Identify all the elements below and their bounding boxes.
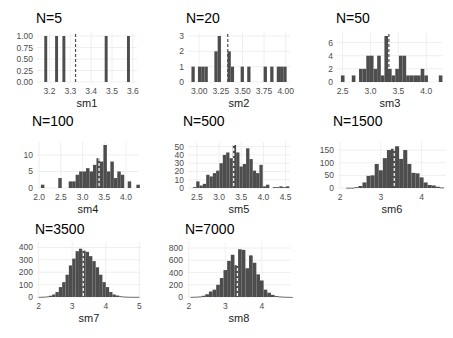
- histogram-bar: [76, 175, 79, 188]
- histogram-bar: [410, 75, 414, 82]
- histogram-bar: [220, 278, 224, 297]
- histogram-bar: [200, 186, 203, 188]
- histogram-bar: [72, 181, 75, 188]
- histogram-bar: [413, 75, 417, 82]
- histogram-bar: [205, 67, 208, 82]
- histogram-bar: [121, 175, 124, 188]
- histogram-bar: [375, 164, 379, 188]
- histogram-bar: [86, 168, 89, 188]
- x-tick-label: 3.75: [256, 86, 273, 96]
- histogram-bar: [399, 56, 403, 82]
- y-tick-label: 150: [320, 145, 334, 155]
- histogram-bar: [399, 159, 403, 188]
- histogram-bar: [358, 186, 362, 188]
- y-tick-label: 200: [169, 280, 183, 290]
- histogram-bar: [387, 150, 391, 188]
- histogram-bar: [392, 75, 396, 82]
- histogram-bar: [44, 36, 47, 82]
- x-tick-label: 2.5: [55, 192, 67, 202]
- histogram-bar: [260, 280, 264, 297]
- histogram-bar: [198, 297, 202, 298]
- histogram-bar: [242, 250, 246, 297]
- histogram-bar: [286, 186, 289, 188]
- histogram-bar: [403, 56, 407, 82]
- histogram-bar: [424, 182, 428, 188]
- x-tick-label: 3.0: [365, 86, 377, 96]
- histogram-bar: [210, 176, 213, 188]
- y-tick-label: 0: [328, 77, 333, 87]
- x-tick-label: 2: [36, 301, 41, 311]
- y-tick-label: 0: [28, 292, 33, 302]
- histogram-bar: [213, 290, 217, 297]
- histogram-bar: [271, 295, 275, 297]
- x-tick-label: 2: [338, 192, 343, 202]
- x-tick-label: 4.00: [277, 86, 294, 96]
- histogram-plot: 01233.003.253.503.754.00sm2: [150, 0, 300, 110]
- histogram-bar: [196, 181, 199, 188]
- histogram-bar: [191, 67, 194, 82]
- histogram-bar: [79, 171, 82, 188]
- histogram-bar: [193, 187, 196, 188]
- histogram-bar: [198, 67, 201, 82]
- histogram-panel-sm1: N=50.000.250.500.751.003.23.33.43.53.6sm…: [0, 0, 150, 110]
- histogram-bar: [39, 297, 42, 298]
- histogram-bar: [92, 261, 95, 297]
- y-tick-label: 1.00: [16, 31, 33, 41]
- histogram-bar: [266, 185, 269, 188]
- histogram-bar: [428, 185, 432, 188]
- histogram-bar: [256, 274, 260, 297]
- histogram-bar: [424, 75, 428, 82]
- histogram-bar: [202, 296, 206, 297]
- histogram-bar: [41, 185, 44, 188]
- x-axis-label: sm8: [229, 312, 250, 324]
- histogram-bar: [366, 56, 370, 82]
- histogram-bar: [233, 145, 236, 188]
- histogram-panel-sm5: N=500010203040502.53.03.54.04.5sm5: [150, 105, 300, 215]
- histogram-bar: [245, 268, 249, 297]
- x-axis-label: sm7: [79, 312, 100, 324]
- histogram-bar: [395, 146, 399, 188]
- histogram-panel-sm6: N=1500050100150234sm6: [300, 105, 450, 215]
- histogram-bar: [256, 173, 259, 188]
- histogram-bar: [194, 297, 198, 298]
- histogram-bar: [270, 67, 273, 82]
- histogram-panel-sm8: N=70000200400600800234sm8: [150, 215, 300, 325]
- histogram-bar: [216, 285, 220, 297]
- y-tick-label: 100: [19, 280, 33, 290]
- x-tick-label: 3: [223, 301, 228, 311]
- histogram-bar: [114, 178, 117, 188]
- histogram-plot: 02462.53.03.54.0sm3: [300, 0, 450, 110]
- histogram-bar: [105, 36, 108, 82]
- y-tick-label: 2: [328, 64, 333, 74]
- histogram-bar: [100, 162, 103, 188]
- histogram-bar: [381, 75, 385, 82]
- histogram-bar: [246, 148, 249, 188]
- histogram-bar: [59, 287, 62, 297]
- histogram-bar: [133, 297, 136, 298]
- histogram-bar: [102, 282, 105, 297]
- histogram-bar: [213, 173, 216, 188]
- y-tick-label: 0.75: [16, 43, 33, 53]
- histogram-panel-sm7: N=350001002003004002345sm7: [0, 215, 150, 325]
- y-tick-label: 300: [19, 255, 33, 265]
- histogram-bar: [275, 296, 279, 297]
- histogram-bar: [406, 75, 410, 82]
- histogram-bar: [341, 75, 345, 82]
- histogram-plot: 01002003004002345sm7: [0, 215, 150, 325]
- x-tick-label: 4.0: [420, 86, 432, 96]
- x-tick-label: 4: [259, 301, 264, 311]
- histogram-bar: [90, 171, 93, 188]
- histogram-bar: [86, 252, 89, 297]
- histogram-plot: 050100150234sm6: [300, 105, 450, 215]
- histogram-bar: [440, 187, 444, 188]
- histogram-bar: [112, 295, 115, 297]
- histogram-bar: [55, 36, 58, 82]
- histogram-bars: [346, 146, 444, 188]
- histogram-bar: [280, 67, 283, 82]
- histogram-bar: [282, 297, 286, 298]
- y-tick-label: 0.00: [16, 77, 33, 87]
- histogram-bar: [126, 297, 129, 298]
- x-tick-label: 2.5: [337, 86, 349, 96]
- histogram-bar: [283, 67, 286, 82]
- x-tick-label: 3.0: [77, 192, 89, 202]
